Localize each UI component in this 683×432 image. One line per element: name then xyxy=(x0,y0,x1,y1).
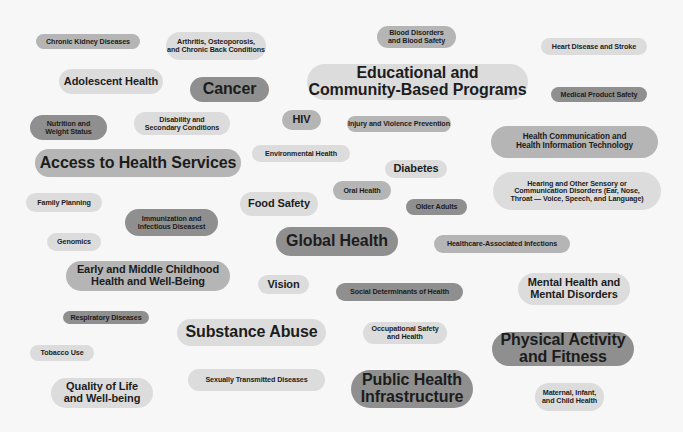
tag-disability-secondary-conditions[interactable]: Disability and Secondary Conditions xyxy=(134,112,230,135)
tag-global-health[interactable]: Global Health xyxy=(276,227,398,256)
tag-food-safety[interactable]: Food Safety xyxy=(240,192,318,216)
tag-environmental-health[interactable]: Environmental Health xyxy=(252,145,350,162)
tag-respiratory-diseases[interactable]: Respiratory Diseases xyxy=(63,311,149,324)
tag-mental-health[interactable]: Mental Health and Mental Disorders xyxy=(518,273,630,305)
tag-cancer[interactable]: Cancer xyxy=(190,77,269,102)
tag-access-to-health-services[interactable]: Access to Health Services xyxy=(35,149,241,177)
tag-blood-disorders[interactable]: Blood Disorders and Blood Safety xyxy=(377,26,456,48)
tag-maternal-infant-child-health[interactable]: Maternal, Infant, and Child Health xyxy=(535,383,604,411)
tag-substance-abuse[interactable]: Substance Abuse xyxy=(177,319,326,346)
tag-immunization-infectious-diseases[interactable]: Immunization and Infectious Diseasest xyxy=(125,209,218,236)
tag-diabetes[interactable]: Diabetes xyxy=(385,160,447,178)
tag-educational-community-programs[interactable]: Educational and Community-Based Programs xyxy=(307,64,528,100)
tag-family-planning[interactable]: Family Planning xyxy=(26,193,102,212)
tag-social-determinants[interactable]: Social Determinants of Health xyxy=(336,283,463,301)
tag-nutrition-weight-status[interactable]: Nutrition and Weight Status xyxy=(30,115,107,140)
tag-health-communication-it[interactable]: Health Communication and Health Informat… xyxy=(491,126,658,158)
tag-hiv[interactable]: HIV xyxy=(282,110,321,130)
tag-arthritis-osteoporosis[interactable]: Arthritis, Osteoporosis, and Chronic Bac… xyxy=(166,32,266,60)
tag-hearing-sensory-communication[interactable]: Hearing and Other Sensory or Communicati… xyxy=(493,172,661,210)
tag-heart-disease-stroke[interactable]: Heart Disease and Stroke xyxy=(541,38,647,55)
tag-chronic-kidney-diseases[interactable]: Chronic Kidney Diseases xyxy=(36,34,140,49)
tag-quality-of-life[interactable]: Quality of Life and Well-being xyxy=(51,378,153,408)
tag-injury-violence-prevention[interactable]: Injury and Violence Prevention xyxy=(347,116,451,132)
tag-public-health-infrastructure[interactable]: Public Health Infrastructure xyxy=(351,370,473,408)
tag-genomics[interactable]: Genomics xyxy=(47,233,101,251)
tag-occupational-safety[interactable]: Occupational Safety and Health xyxy=(363,322,447,344)
tag-sexually-transmitted-diseases[interactable]: Sexually Transmitted Diseases xyxy=(188,369,325,391)
tag-vision[interactable]: Vision xyxy=(258,275,309,294)
tag-early-middle-childhood[interactable]: Early and Middle Childhood Health and We… xyxy=(66,261,230,291)
tag-tobacco-use[interactable]: Tobacco Use xyxy=(30,345,94,361)
tag-adolescent-health[interactable]: Adolescent Health xyxy=(59,69,163,94)
tag-older-adults[interactable]: Older Adults xyxy=(406,199,467,215)
tag-medical-product-safety[interactable]: Medical Product Safety xyxy=(551,87,647,102)
tag-cloud: Chronic Kidney Diseases Arthritis, Osteo… xyxy=(0,0,683,432)
tag-healthcare-associated-infections[interactable]: Healthcare-Associated Infections xyxy=(434,235,570,253)
tag-physical-activity-fitness[interactable]: Physical Activity and Fitness xyxy=(492,332,634,366)
tag-oral-health[interactable]: Oral Health xyxy=(333,181,391,200)
